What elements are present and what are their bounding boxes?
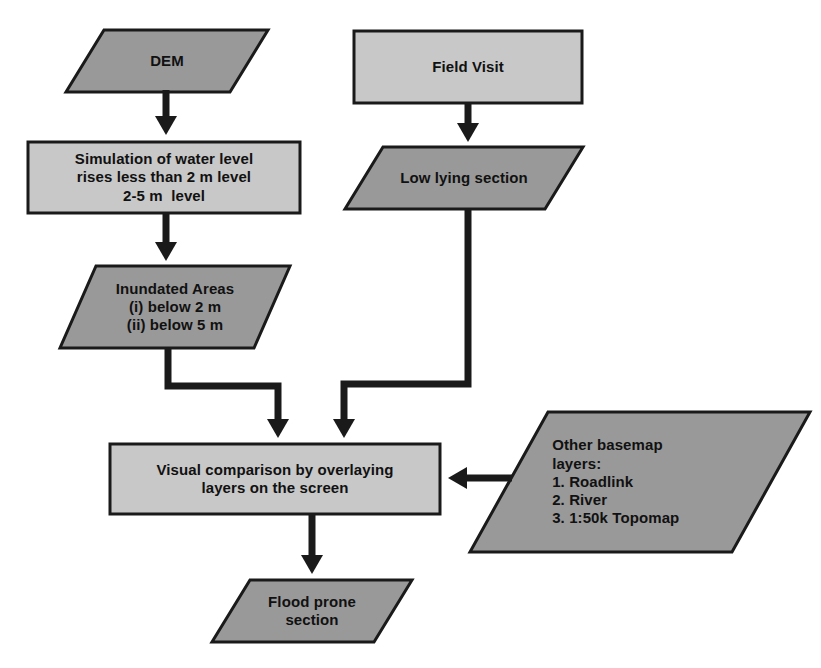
node-shape-dem[interactable]: [66, 30, 268, 92]
node-shape-simulation-of-water-level[interactable]: [28, 142, 300, 213]
connector-simulation-to-inundated-areas: [155, 213, 177, 261]
connector-low-lying-section-to-visual-comparison-line: [344, 209, 468, 422]
node-shape-inundated-areas[interactable]: [60, 266, 290, 348]
connector-other-basemap-layers-to-visual-comparison: [448, 467, 512, 489]
connector-visual-comparison-to-flood-prone-section: [301, 514, 323, 574]
connector-other-basemap-layers-to-visual-comparison-arrowhead: [448, 467, 467, 489]
connector-simulation-to-inundated-areas-arrowhead: [155, 242, 177, 261]
connector-low-lying-section-to-visual-comparison: [333, 209, 468, 438]
connector-dem-to-simulation: [155, 90, 177, 135]
connector-field-visit-to-low-lying-section-arrowhead: [457, 123, 479, 142]
connector-visual-comparison-to-flood-prone-section-arrowhead: [301, 555, 323, 574]
connector-low-lying-section-to-visual-comparison-arrowhead: [333, 419, 355, 438]
node-shape-flood-prone-section[interactable]: [212, 580, 412, 642]
node-shape-other-basemap-layers[interactable]: [470, 412, 810, 552]
node-shape-field-visit[interactable]: [354, 31, 582, 103]
shapes-layer: [28, 30, 810, 642]
connector-inundated-areas-to-visual-comparison: [168, 348, 289, 438]
connector-dem-to-simulation-arrowhead: [155, 116, 177, 135]
flowchart-svg: [0, 0, 821, 668]
connector-inundated-areas-to-visual-comparison-line: [168, 348, 278, 422]
flowchart-canvas: DEMField VisitSimulation of water levelr…: [0, 0, 821, 668]
connector-inundated-areas-to-visual-comparison-arrowhead: [267, 419, 289, 438]
node-shape-low-lying-section[interactable]: [345, 147, 583, 209]
connector-field-visit-to-low-lying-section: [457, 103, 479, 142]
node-shape-visual-comparison-by-overlaying-layers[interactable]: [110, 444, 440, 514]
